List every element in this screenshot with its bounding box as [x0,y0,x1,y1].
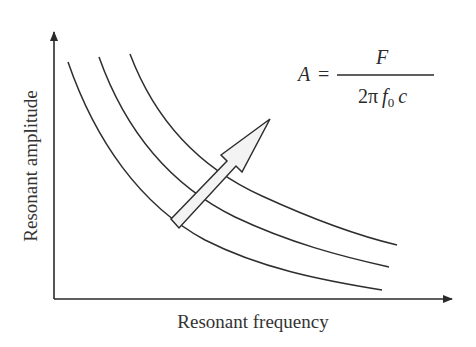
amplitude-formula: A = F 2πf0c [296,46,434,110]
x-axis-label: Resonant frequency [177,311,329,332]
increase-arrow-icon [171,119,270,228]
formula-lhs: A [296,63,311,85]
formula-equals: = [318,63,329,85]
formula-denominator: 2πf0c [358,85,407,110]
amplitude-curves [68,54,397,290]
y-axis-label: Resonant amplitude [20,90,41,241]
resonance-diagram: A = F 2πf0c Resonant frequency Resonant … [0,0,476,347]
axes [54,32,452,299]
denominator-subscript: 0 [388,95,395,110]
denominator-prefix: 2π [358,85,378,107]
denominator-c: c [398,85,407,107]
formula-numerator: F [375,46,389,68]
